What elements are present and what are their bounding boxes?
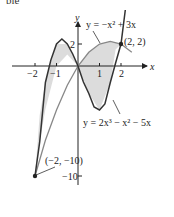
cubic-label: y = 2x³ − x² − 5x	[83, 117, 151, 128]
annotation-2-2: (2, 2)	[124, 36, 146, 48]
x-axis-label: x	[149, 61, 155, 72]
annotation-neg2-neg10: (−2, −10)	[45, 155, 83, 167]
annotation-leader	[36, 167, 55, 175]
y-tick-label: 2	[70, 39, 75, 50]
y-tick-label: −10	[62, 171, 78, 182]
y-axis-label: y	[74, 12, 80, 23]
chart: −2 −1 1 2 2 −10 x y (2, 2) (−2, −10) y =…	[0, 0, 174, 217]
parabola-label: y = −x² + 3x	[86, 19, 136, 30]
x-tick-label: 1	[97, 68, 102, 79]
cubic-leader	[113, 100, 120, 114]
point-2-2	[119, 42, 123, 46]
x-tick-label: −1	[50, 68, 61, 79]
parabola-leader	[93, 31, 100, 43]
x-tick-label: 2	[119, 68, 124, 79]
x-tick-label: −2	[27, 68, 38, 79]
